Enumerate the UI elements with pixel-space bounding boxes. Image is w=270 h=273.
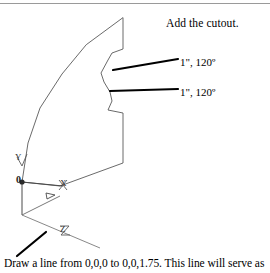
cad-figure-canvas (0, 0, 270, 273)
profile-outline (22, 18, 123, 186)
ucs-z-axis-extension (22, 196, 60, 215)
figure-page: Add the cutout. 1", 120º 1", 120º Draw a… (0, 0, 270, 273)
ucs-y-axis-label: Y (15, 152, 22, 162)
leader-line-lower (110, 89, 178, 91)
ucs-z-axis-label: Z (60, 224, 66, 234)
leader-line-caption (17, 232, 46, 256)
annotation-label-cutout-lower: 1", 120º (180, 86, 215, 98)
ucs-icon (17, 154, 100, 248)
figure-title: Add the cutout. (166, 17, 239, 29)
ucs-arrowhead-icon (46, 193, 55, 199)
ucs-x-axis-label: X (60, 178, 67, 188)
ucs-x-axis (22, 182, 63, 186)
leader-line-upper (113, 59, 178, 70)
figure-caption: Draw a line from 0,0,0 to 0,0,1.75. This… (4, 257, 264, 269)
annotation-label-cutout-upper: 1", 120º (180, 56, 215, 68)
ucs-origin-label: 0 (16, 174, 21, 185)
